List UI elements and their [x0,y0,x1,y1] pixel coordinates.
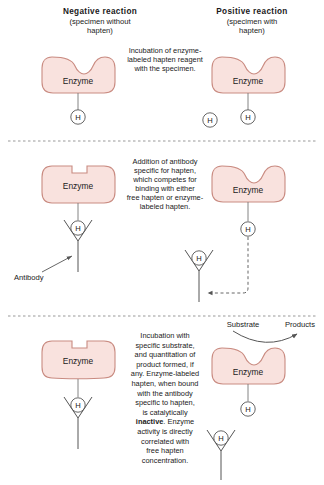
substrate-label: Substrate [227,320,260,329]
enzyme-shape-positive-bottom [212,348,285,384]
hapten-label: H [218,434,223,443]
hapten-free-positive-bottom: H [214,431,228,445]
caption-line: inactive. Enzyme [136,417,194,426]
caption-line: labeled hapten reagent [127,55,203,64]
caption-line: activity is directly [137,427,193,436]
positive-reaction-subtitle-line1: (specimen with [227,17,278,26]
hapten-free-positive-top: H [203,113,217,127]
enzyme-label-negative-bottom: Enzyme [63,356,94,366]
competition-arrow-positive-mid [208,237,248,293]
enzyme-label-negative-top: Enzyme [63,76,94,86]
hapten-bound-positive-mid: H [241,222,255,236]
hapten-free-positive-mid: H [192,251,206,265]
caption-incubation: Incubation of enzyme-labeled hapten reag… [127,46,203,73]
caption-line: labeled hapten. [140,202,191,211]
enzyme-label-positive-mid: Enzyme [233,185,264,195]
caption-line: free hapten or enzyme- [127,193,204,202]
caption-line: concentration. [142,456,188,465]
caption-line: Incubation with [140,331,189,340]
caption-line: specific to hapten, [135,398,195,407]
enzyme-label-positive-bottom: Enzyme [233,367,264,377]
products-label: Products [285,320,315,329]
caption-line: binding with either [135,184,195,193]
caption-substrate-incubation: Incubation withspecific substrate,and qu… [131,331,199,465]
hapten-bound-positive-top: H [241,110,255,124]
diagram-canvas: Enzyme H Enzyme H H Enzyme H [0,0,324,485]
enzyme-hapten-assay-diagram: Enzyme H Enzyme H H Enzyme H [0,0,324,485]
caption-line: hapten, when bound [132,379,199,388]
caption-line: with the antibody [136,389,193,398]
hapten-label: H [75,113,80,122]
hapten-label: H [75,224,80,233]
caption-line: Addition of antibody [133,157,198,166]
hapten-label: H [245,225,250,234]
enzyme-label-positive-top: Enzyme [233,76,264,86]
hapten-negative-top: H [71,110,85,124]
hapten-label: H [245,405,250,414]
negative-reaction-subtitle-line1: (specimen without [69,17,131,26]
caption-line: any. Enzyme-labeled [131,369,199,378]
enzyme-shape-positive-mid [212,166,285,202]
antibody-label: Antibody [14,273,44,282]
caption-line: is catalytically [142,408,187,417]
hapten-label: H [207,116,212,125]
caption-line: Incubation of enzyme- [129,46,202,55]
enzyme-label-negative-mid: Enzyme [63,181,94,191]
hapten-label: H [75,401,80,410]
caption-antibody-addition: Addition of antibodyspecific for hapten,… [127,157,204,211]
caption-line: correlated with [141,437,189,446]
hapten-label: H [196,254,201,263]
substrate-products-arrow [233,331,297,342]
negative-reaction-title: Negative reaction [63,7,137,16]
enzyme-shape-positive-top [212,57,285,93]
negative-reaction-subtitle-line2: hapten) [87,26,113,35]
caption-line: with the specimen. [133,64,195,73]
caption-line: free hapten [146,446,183,455]
caption-line: product formed, if [136,360,194,369]
positive-reaction-subtitle-line2: hapten) [239,26,265,35]
caption-line: and quantitation of [135,350,197,359]
hapten-label: H [245,113,250,122]
antibody-leader-line [42,256,72,272]
positive-reaction-title: Positive reaction [216,7,287,16]
caption-line: specific for hapten, [134,166,196,175]
caption-line: which competes for [132,175,197,184]
hapten-bound-positive-bottom: H [241,402,255,416]
caption-line: specific substrate, [135,341,194,350]
enzyme-shape-negative-top [42,57,115,93]
